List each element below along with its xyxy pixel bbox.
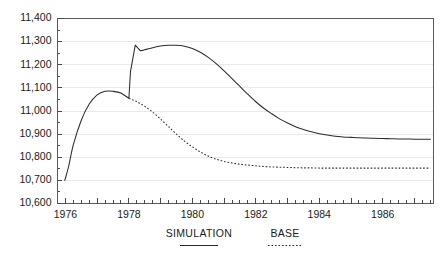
y-axis-tick-label: 11,300 — [20, 34, 51, 46]
chart-background — [0, 0, 446, 259]
y-axis-tick-label: 11,200 — [20, 58, 51, 70]
line-chart: 10,60010,70010,80010,90011,00011,10011,2… — [0, 0, 446, 259]
x-axis-tick-label: 1984 — [308, 208, 332, 220]
chart-page: 10,60010,70010,80010,90011,00011,10011,2… — [0, 0, 446, 259]
legend-label-base: BASE — [270, 227, 299, 239]
y-axis-tick-labels: 10,60010,70010,80010,90011,00011,10011,2… — [19, 11, 51, 208]
y-axis-tick-label: 10,800 — [19, 150, 51, 162]
x-axis-tick-label: 1980 — [181, 208, 205, 220]
y-axis-tick-label: 11,000 — [20, 104, 51, 116]
y-axis-tick-label: 10,700 — [19, 173, 51, 185]
x-axis-tick-label: 1976 — [54, 208, 78, 220]
x-axis-tick-label: 1982 — [244, 208, 268, 220]
x-axis-tick-label: 1986 — [371, 208, 395, 220]
legend-label-simulation: SIMULATION — [166, 227, 232, 239]
y-axis-tick-label: 11,100 — [20, 81, 51, 93]
y-axis-tick-label: 10,900 — [19, 127, 51, 139]
y-axis-tick-label: 11,400 — [20, 11, 51, 23]
x-axis-tick-label: 1978 — [117, 208, 141, 220]
y-axis-tick-label: 10,600 — [19, 196, 51, 208]
